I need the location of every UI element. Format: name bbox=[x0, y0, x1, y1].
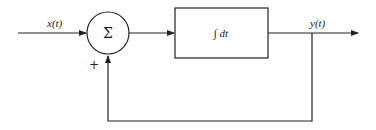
integrator-label: ∫ dt bbox=[213, 27, 229, 40]
output-label: y(t) bbox=[309, 17, 326, 30]
input-label: x(t) bbox=[46, 17, 63, 30]
feedback-sign: + bbox=[89, 58, 99, 72]
block-diagram: x(t) Σ + ∫ dt y(t) bbox=[0, 0, 376, 130]
sigma-symbol: Σ bbox=[103, 25, 113, 41]
